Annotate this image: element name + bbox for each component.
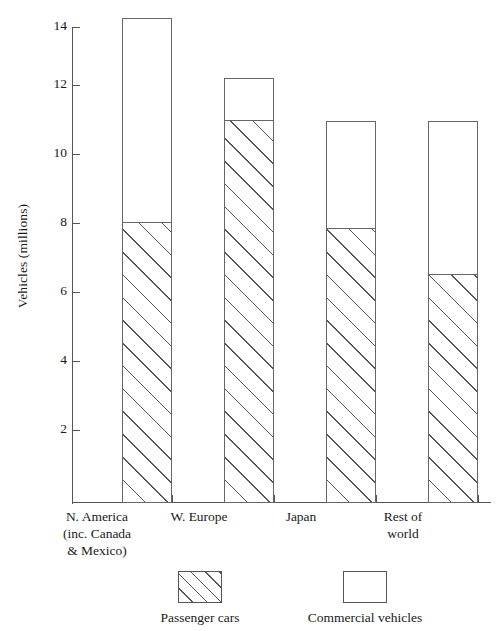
x-tick-5 [376, 495, 377, 503]
y-tick-6: 6 [73, 292, 80, 293]
y-axis-title: Vehicles (millions) [15, 176, 31, 336]
bar-segment-passenger-n-america [122, 222, 172, 503]
y-tick-label-12: 12 [54, 76, 68, 92]
x-tick-3 [274, 495, 275, 503]
y-tick-2: 2 [73, 430, 80, 431]
bar-segment-passenger-japan [326, 228, 376, 503]
y-tick-14: 14 [73, 27, 80, 28]
x-label-rest-of-world: Rest of world [328, 508, 478, 542]
y-axis-line [72, 27, 73, 504]
y-tick-label-10: 10 [54, 145, 68, 161]
bar-segment-passenger-w-europe [224, 120, 274, 503]
y-tick-label-8: 8 [60, 214, 67, 230]
bar-segment-commercial-n-america [122, 18, 172, 223]
plot-area: 14 12 10 8 6 4 2 [72, 8, 492, 503]
bar-segment-commercial-w-europe [224, 78, 274, 121]
x-label-n-america-line-2: (inc. Canada [22, 525, 172, 542]
legend-swatch-commercial-vehicles-icon [343, 571, 387, 603]
y-tick-label-14: 14 [54, 18, 68, 34]
y-tick-4: 4 [73, 361, 80, 362]
legend-label-passenger-cars: Passenger cars [120, 610, 280, 626]
bar-w-europe [224, 78, 274, 503]
x-tick-7 [478, 495, 479, 503]
bar-n-america [122, 18, 172, 503]
y-tick-12: 12 [73, 85, 80, 86]
legend-label-commercial-vehicles: Commercial vehicles [265, 610, 465, 626]
bar-segment-commercial-rest-of-world [428, 121, 478, 275]
y-tick-10: 10 [73, 154, 80, 155]
legend-swatch-passenger-cars-icon [178, 571, 222, 603]
legend-item-commercial-vehicles: Commercial vehicles [265, 571, 465, 626]
y-tick-label-2: 2 [60, 421, 67, 437]
chart-legend: Passenger cars Commercial vehicles [0, 571, 503, 631]
x-tick-1 [172, 495, 173, 503]
y-tick-label-4: 4 [60, 352, 67, 368]
bar-rest-of-world [428, 121, 478, 503]
bar-japan [326, 121, 376, 503]
vehicle-production-chart: Vehicles (millions) 14 12 10 8 6 4 2 [0, 0, 503, 631]
bar-segment-passenger-rest-of-world [428, 274, 478, 503]
x-label-n-america-line-3: & Mexico) [22, 542, 172, 559]
legend-item-passenger-cars: Passenger cars [120, 571, 280, 626]
y-tick-label-6: 6 [60, 283, 67, 299]
x-label-rest-of-world-line-1: Rest of [328, 508, 478, 525]
bar-segment-commercial-japan [326, 121, 376, 229]
x-label-rest-of-world-line-2: world [328, 525, 478, 542]
y-tick-8: 8 [73, 223, 80, 224]
